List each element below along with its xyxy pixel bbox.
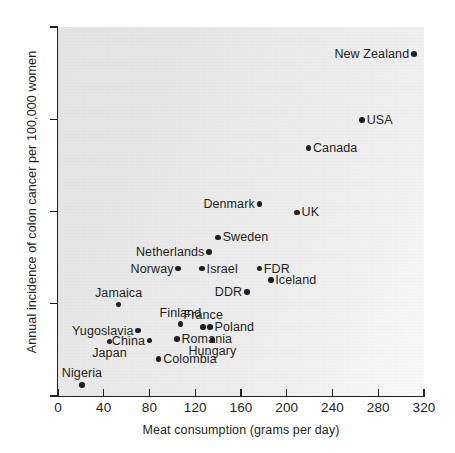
x-tick-mark [423,389,424,396]
data-point[interactable] [359,117,365,123]
data-point-label: Nigeria [62,367,102,380]
x-tick-mark [195,389,196,396]
data-point[interactable] [268,277,274,283]
data-point[interactable] [79,382,85,388]
data-point-label: Denmark [203,198,254,211]
x-tick-mark [240,389,241,396]
y-axis-line [57,26,58,397]
data-point[interactable] [306,145,312,151]
data-point-label: Norway [131,262,174,275]
data-point-label: Netherlands [136,246,205,259]
data-point[interactable] [178,321,184,327]
x-tick-label: 200 [262,400,312,415]
y-tick-mark [50,395,57,396]
data-point-label: Sweden [223,231,269,244]
y-tick-mark [50,303,57,304]
x-tick-label: 120 [170,400,220,415]
data-point[interactable] [244,289,250,295]
data-point[interactable] [200,324,206,330]
x-tick-mark [103,389,104,396]
data-point-label: Jamaica [95,287,142,300]
x-tick-label: 240 [308,400,358,415]
data-point-label: UK [302,206,320,219]
data-point-label: Canada [313,142,357,155]
x-tick-mark [332,389,333,396]
data-point-label: DDR [215,286,242,299]
data-point-label: USA [367,114,393,127]
x-tick-mark [286,389,287,396]
scatter-plot-figure: 1020304050 04080120160200240280320 Annua… [0,0,455,453]
x-tick-label: 320 [399,400,449,415]
x-tick-label: 80 [125,400,175,415]
x-tick-label: 40 [79,400,129,415]
x-tick-mark [149,389,150,396]
data-point[interactable] [294,210,300,216]
x-tick-label: 0 [33,400,83,415]
x-tick-label: 280 [353,400,403,415]
data-point-label: Colombia [163,353,217,366]
data-point-label: China [112,334,145,347]
x-tick-mark [57,389,58,396]
data-point[interactable] [210,337,216,343]
data-point[interactable] [257,201,263,207]
data-point-label: Israel [207,262,238,275]
x-tick-label: 160 [216,400,266,415]
x-axis-title: Meat consumption (grams per day) [57,423,425,437]
data-point-label: Japan [92,347,127,360]
x-tick-mark [378,389,379,396]
data-point-label: New Zealand [334,48,409,61]
y-tick-mark [50,211,57,212]
x-axis-line [57,396,425,397]
data-point[interactable] [207,324,213,330]
data-point[interactable] [411,51,417,57]
y-tick-mark [50,26,57,27]
data-point[interactable] [215,235,221,241]
data-point[interactable] [174,336,180,342]
data-point-label: Iceland [275,274,316,287]
data-point-label: Romania [181,333,232,346]
data-point[interactable] [206,249,212,255]
y-tick-mark [50,119,57,120]
y-axis-title: Annual incidence of colon cancer per 100… [25,17,39,387]
